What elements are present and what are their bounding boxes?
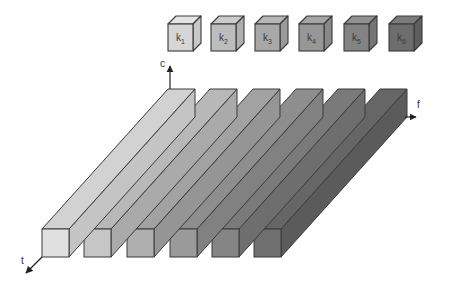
diagram-canvas: k1k2k3k4k5k6 c f t [0,0,449,288]
kernel-row: k1k2k3k4k5k6 [168,16,422,51]
f-axis-label: f [417,99,420,110]
t-axis-label: t [21,255,24,266]
kernel-cube-2: k2 [211,16,244,51]
kernel-cube-1: k1 [168,16,201,51]
kernel-cube-6: k6 [389,16,422,51]
feature-bars [42,89,407,257]
t-axis: t [21,255,42,273]
kernel-cube-5: k5 [344,16,377,51]
c-axis-label: c [160,58,165,69]
kernel-cube-4: k4 [299,16,332,51]
kernel-cube-3: k3 [255,16,288,51]
c-axis: c [160,58,170,89]
